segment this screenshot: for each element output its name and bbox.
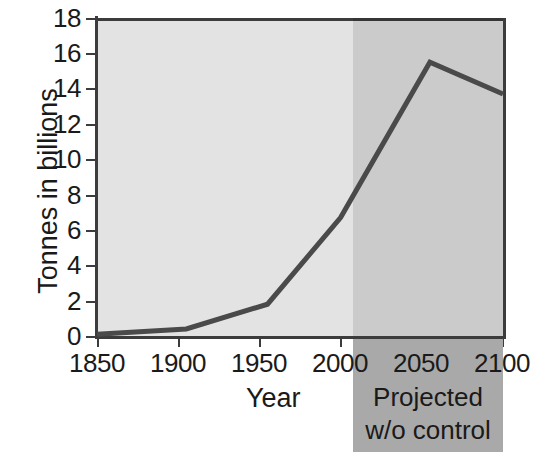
y-tick-mark [86, 159, 96, 161]
x-tick-label-2050: 2050 [376, 349, 466, 377]
y-tick-label-18: 18 [21, 5, 81, 31]
x-tick-label-2000: 2000 [295, 349, 385, 377]
y-axis-title: Tonnes in billions [34, 31, 62, 351]
y-tick-mark [86, 265, 96, 267]
x-tick-mark [340, 337, 342, 347]
y-tick-mark [86, 53, 96, 55]
line-chart-figure: 18 16 14 12 10 8 6 4 2 0 1850 1900 1950 … [0, 0, 533, 452]
projection-caption-line1: Projected [353, 381, 503, 414]
x-tick-mark [97, 337, 99, 347]
y-tick-mark [86, 301, 96, 303]
x-tick-label-1950: 1950 [214, 349, 304, 377]
x-tick-label-1850: 1850 [52, 349, 142, 377]
y-tick-mark [86, 18, 96, 20]
y-tick-mark [86, 195, 96, 197]
x-tick-label-1900: 1900 [133, 349, 223, 377]
x-tick-mark [259, 337, 261, 347]
y-tick-mark [86, 230, 96, 232]
y-tick-mark [86, 124, 96, 126]
x-tick-mark [178, 337, 180, 347]
x-axis-title: Year [246, 384, 301, 413]
projection-caption-line2: w/o control [353, 414, 503, 447]
x-tick-label-2100: 2100 [457, 349, 533, 377]
y-axis-line [95, 16, 98, 339]
plot-area [97, 18, 506, 339]
projection-caption: Projected w/o control [353, 381, 503, 447]
y-tick-mark [86, 336, 96, 338]
y-tick-mark [86, 88, 96, 90]
